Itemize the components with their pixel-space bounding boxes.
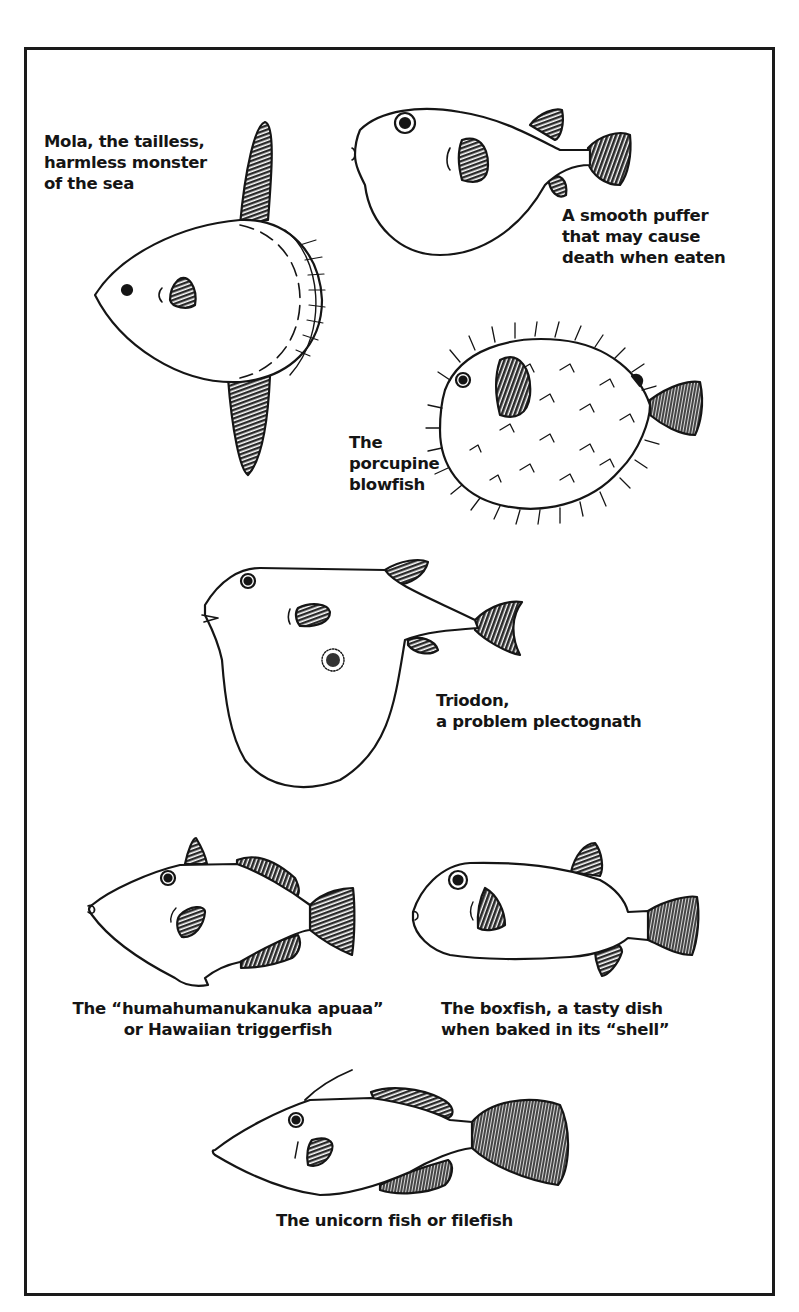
- caption-line: The: [349, 432, 440, 453]
- porcupine-blowfish-icon: [426, 322, 702, 524]
- caption-line: harmless monster: [44, 152, 207, 173]
- caption-line: that may cause: [562, 226, 726, 247]
- caption-line: when baked in its “shell”: [441, 1019, 669, 1040]
- caption-porcupine-blowfish: The porcupine blowfish: [349, 432, 440, 495]
- caption-smooth-puffer: A smooth puffer that may cause death whe…: [562, 205, 726, 268]
- caption-hawaiian-triggerfish: The “humahumanukanuka apuaa” or Hawaiian…: [46, 998, 410, 1040]
- caption-line: porcupine: [349, 453, 440, 474]
- unicorn-filefish-icon: [213, 1070, 568, 1195]
- caption-line: The unicorn fish or filefish: [276, 1210, 513, 1231]
- fish-illustrations: [0, 0, 799, 1312]
- caption-line: or Hawaiian triggerfish: [46, 1019, 410, 1040]
- triodon-fish-icon: [202, 560, 522, 787]
- caption-line: Mola, the tailless,: [44, 131, 207, 152]
- caption-line: a problem plectognath: [436, 711, 641, 732]
- caption-line: Triodon,: [436, 690, 641, 711]
- hawaiian-triggerfish-icon: [88, 838, 354, 986]
- caption-mola: Mola, the tailless, harmless monster of …: [44, 131, 207, 194]
- caption-line: A smooth puffer: [562, 205, 726, 226]
- caption-line: of the sea: [44, 173, 207, 194]
- caption-boxfish: The boxfish, a tasty dish when baked in …: [441, 998, 669, 1040]
- caption-line: The boxfish, a tasty dish: [441, 998, 669, 1019]
- caption-line: The “humahumanukanuka apuaa”: [46, 998, 410, 1019]
- caption-triodon: Triodon, a problem plectognath: [436, 690, 641, 732]
- boxfish-icon: [413, 843, 698, 976]
- caption-line: death when eaten: [562, 247, 726, 268]
- caption-unicorn-filefish: The unicorn fish or filefish: [276, 1210, 513, 1231]
- caption-line: blowfish: [349, 474, 440, 495]
